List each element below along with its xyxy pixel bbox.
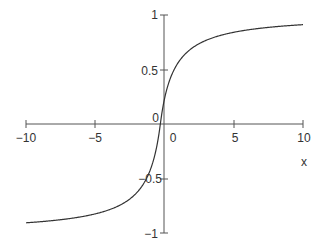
x-axis: −10 −5 0 5 10 x — [16, 120, 311, 169]
y-tick-label: 0.5 — [141, 64, 158, 78]
y-tick-label: 0 — [152, 111, 159, 125]
x-tick-label: 10 — [297, 131, 311, 145]
x-tick-label: −10 — [16, 131, 37, 145]
x-tick-label: −5 — [88, 131, 102, 145]
x-tick-label: 5 — [232, 131, 239, 145]
y-tick-label: −1 — [144, 227, 158, 241]
y-tick-label: 1 — [151, 8, 158, 22]
x-axis-label: x — [301, 155, 307, 169]
chart: −10 −5 0 5 10 x 1 0.5 0 −0.5 −1 — [0, 0, 325, 250]
x-tick-label: 0 — [170, 131, 177, 145]
y-tick-label: −0.5 — [138, 172, 162, 186]
